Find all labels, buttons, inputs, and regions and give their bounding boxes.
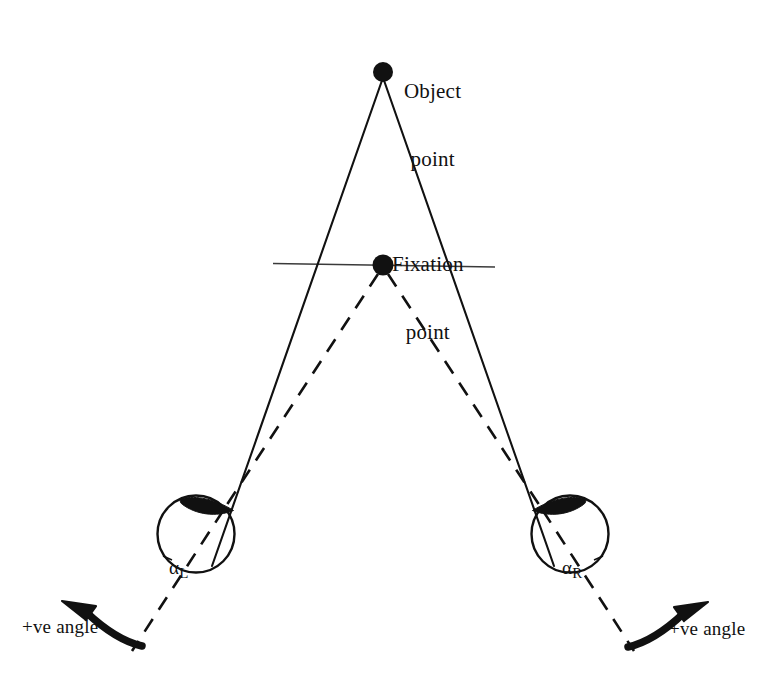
object-point-label-line2: point (404, 148, 461, 171)
object-point-dot (373, 62, 393, 82)
right-eye-lens (533, 497, 586, 514)
ve-angle-left-label: +ve angle (22, 617, 98, 638)
object-point-label: Object point (404, 35, 461, 216)
object-to-left-eye-line (212, 79, 383, 566)
left-eye-lens (180, 497, 233, 514)
alpha-right-subscript: R (572, 565, 582, 581)
alpha-left-symbol: α (169, 557, 179, 578)
fixation-point-label: Fixation point (392, 208, 464, 389)
figure-canvas: Object point Fixation point αL αR +ve an… (0, 0, 768, 688)
ve-angle-right-label: +ve angle (669, 619, 745, 640)
right-eye-axis-extension-dashed-line (543, 510, 635, 651)
alpha-left-label: αL (169, 558, 188, 581)
fixation-point-label-line2: point (392, 321, 464, 344)
fixation-point-dot (373, 255, 394, 276)
alpha-right-label: αR (562, 558, 582, 581)
object-point-label-line1: Object (404, 80, 461, 103)
fixation-point-label-line1: Fixation (392, 253, 464, 276)
alpha-left-subscript: L (179, 565, 188, 581)
alpha-right-symbol: α (562, 557, 572, 578)
diagram-svg (0, 0, 768, 688)
